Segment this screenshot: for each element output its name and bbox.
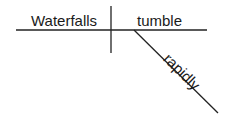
verb-word: tumble — [137, 13, 182, 28]
subject-word: Waterfalls — [31, 13, 97, 28]
